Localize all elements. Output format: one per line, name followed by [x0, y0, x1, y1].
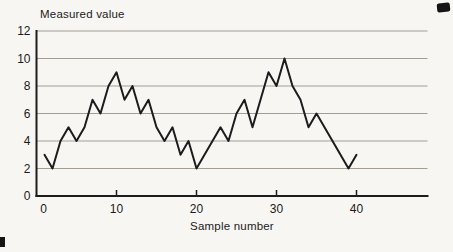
scan-artifact-bottom-left: [0, 237, 5, 247]
run-chart-figure: 010203040024681012 Measured value Sample…: [0, 0, 453, 252]
x-tick-label-10: 10: [110, 202, 124, 216]
x-tick-label-30: 30: [270, 202, 284, 216]
y-tick-label-2: 2: [24, 162, 31, 176]
y-tick-label-4: 4: [24, 134, 31, 148]
y-axis-title: Measured value: [40, 8, 125, 20]
y-tick-label-12: 12: [17, 24, 31, 38]
y-tick-label-8: 8: [24, 79, 31, 93]
y-tick-label-10: 10: [17, 52, 31, 66]
x-tick-label-40: 40: [350, 202, 364, 216]
chart-plot-area: 010203040024681012: [0, 0, 453, 252]
scan-artifact-top-right: [437, 2, 451, 12]
x-tick-label-0: 0: [40, 202, 47, 216]
y-tick-label-6: 6: [24, 107, 31, 121]
y-tick-label-0: 0: [24, 189, 31, 203]
x-axis-title: Sample number: [0, 220, 453, 232]
x-tick-label-20: 20: [190, 202, 204, 216]
